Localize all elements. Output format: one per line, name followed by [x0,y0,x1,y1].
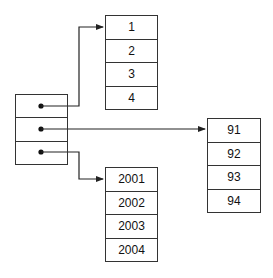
pointer-cell [16,95,67,118]
pointer-cell [16,118,67,141]
array-cell: 3 [106,63,157,87]
array-cell: 2002 [106,192,157,216]
pointer-array [15,94,68,165]
array-cell: 92 [208,143,260,167]
array-cell: 93 [208,166,260,190]
array-cell: 1 [106,16,157,40]
right-array: 91 92 93 94 [207,118,261,213]
array-cell: 2003 [106,215,157,239]
top-array: 1 2 3 4 [105,15,158,110]
array-cell: 94 [208,190,260,214]
array-cell: 2 [106,40,157,64]
array-cell: 4 [106,87,157,111]
array-cell: 91 [208,119,260,143]
bottom-array: 2001 2002 2003 2004 [105,167,158,262]
array-cell: 2001 [106,168,157,192]
pointer-cell [16,142,67,165]
array-cell: 2004 [106,239,157,263]
